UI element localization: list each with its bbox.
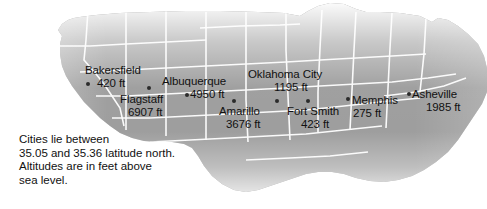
- city-marker-oklahoma-city: [275, 99, 279, 103]
- us-altitude-map-figure: Bakersfield 420 ft Flagstaff 6907 ft Alb…: [0, 0, 487, 209]
- city-label-amarillo: Amarillo 3676 ft: [219, 105, 260, 130]
- city-name-asheville: Asheville: [412, 88, 457, 100]
- city-name-flagstaff: Flagstaff: [120, 93, 163, 105]
- caption-line-2: 35.05 and 35.36 latitude north.: [19, 147, 175, 161]
- city-altitude-oklahoma-city: 1195 ft: [274, 81, 322, 94]
- city-name-oklahoma-city: Oklahoma City: [248, 68, 322, 80]
- city-altitude-albuquerque: 4950 ft: [190, 88, 226, 101]
- city-label-bakersfield: Bakersfield 420 ft: [85, 64, 141, 89]
- city-altitude-fort-smith: 423 ft: [301, 118, 339, 131]
- city-label-albuquerque: Albuquerque 4950 ft: [162, 75, 226, 100]
- city-name-albuquerque: Albuquerque: [162, 75, 226, 87]
- city-label-oklahoma-city: Oklahoma City 1195 ft: [248, 68, 322, 93]
- city-label-memphis: Memphis 275 ft: [352, 94, 398, 119]
- city-name-memphis: Memphis: [352, 94, 398, 106]
- city-altitude-flagstaff: 6907 ft: [128, 106, 163, 119]
- city-name-bakersfield: Bakersfield: [85, 64, 141, 76]
- city-marker-memphis: [346, 97, 350, 101]
- city-marker-flagstaff: [147, 86, 151, 90]
- city-altitude-memphis: 275 ft: [353, 107, 398, 120]
- caption-line-3: Altitudes are in feet above: [19, 160, 175, 174]
- caption-line-4: sea level.: [19, 174, 175, 188]
- city-label-fort-smith: Fort Smith 423 ft: [287, 105, 339, 130]
- city-altitude-asheville: 1985 ft: [426, 101, 460, 114]
- city-label-flagstaff: Flagstaff 6907 ft: [120, 93, 163, 118]
- map-caption: Cities lie between 35.05 and 35.36 latit…: [19, 133, 175, 187]
- city-marker-asheville: [407, 92, 411, 96]
- city-name-amarillo: Amarillo: [219, 105, 260, 117]
- city-marker-amarillo: [232, 99, 236, 103]
- caption-line-1: Cities lie between: [19, 133, 175, 147]
- city-name-fort-smith: Fort Smith: [287, 105, 339, 117]
- city-altitude-bakersfield: 420 ft: [97, 77, 141, 90]
- city-label-asheville: Asheville 1985 ft: [412, 88, 460, 113]
- city-marker-fort-smith: [306, 99, 310, 103]
- city-altitude-amarillo: 3676 ft: [226, 118, 260, 131]
